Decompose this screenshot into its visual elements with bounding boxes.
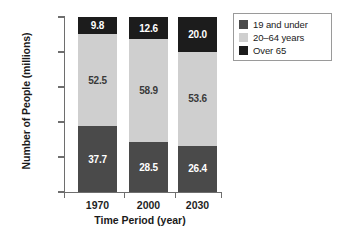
legend-label: 20–64 years <box>253 32 304 43</box>
legend-label: 19 and under <box>253 19 308 30</box>
legend-item: 19 and under <box>239 18 327 30</box>
legend-item: Over 65 <box>239 44 327 56</box>
legend-swatch-icon <box>239 20 248 29</box>
x-tick-mark <box>221 192 222 198</box>
x-tick-mark <box>124 192 125 198</box>
x-tick-mark <box>175 192 176 198</box>
legend-swatch-icon <box>239 33 248 42</box>
legend-swatch-icon <box>239 46 248 55</box>
legend-label: Over 65 <box>253 45 286 56</box>
x-axis-title: Time Period (year) <box>40 214 240 226</box>
x-tick-mark <box>64 192 65 198</box>
x-tick-label-2030: 2030 <box>168 199 228 211</box>
stacked-bar-chart: Number of People (millions) 0.020.040.06… <box>0 0 340 235</box>
legend-item: 20–64 years <box>239 31 327 43</box>
chart-legend: 19 and under20–64 yearsOver 65 <box>233 13 332 61</box>
